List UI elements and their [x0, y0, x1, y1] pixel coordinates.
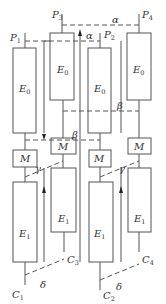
label-alpha-lower: α [86, 30, 93, 41]
label-m-2: M [93, 153, 105, 164]
arrow-down-icon [42, 134, 46, 140]
e1-box-2 [89, 182, 113, 262]
arrow-up-icon [78, 29, 82, 36]
label-beta-upper: β [116, 100, 123, 111]
label-p3: P3 [51, 9, 63, 22]
label-delta-1: δ [40, 279, 46, 290]
label-p2: P2 [103, 29, 115, 42]
label-gamma-2: γ [119, 163, 125, 174]
dashed-connectors [25, 25, 139, 280]
label-p1: P1 [9, 32, 21, 45]
arrow-up-icon-gamma-2 [119, 186, 123, 193]
label-m-4: M [133, 141, 145, 152]
label-c2: C2 [103, 290, 115, 303]
label-c1: C1 [12, 289, 24, 302]
label-c4: C4 [142, 254, 154, 267]
label-m-3: M [57, 141, 69, 152]
label-p4: P4 [141, 9, 153, 22]
label-alpha-top: α [112, 14, 119, 25]
e1-box-1 [13, 182, 37, 262]
label-c3: C3 [67, 254, 79, 267]
back-frame-b-top [44, 41, 50, 133]
delta-line-2 [100, 264, 139, 280]
label-m-1: M [19, 153, 31, 164]
label-beta-lower: β [71, 129, 78, 140]
label-delta-2: δ [116, 281, 122, 292]
diagram-canvas: P1 P3 P2 P4 α α β β γ γ δ δ C1 C3 C2 C4 … [0, 0, 166, 304]
arrow-up-icon-gamma-1 [42, 186, 46, 193]
label-gamma-1: γ [35, 163, 41, 174]
